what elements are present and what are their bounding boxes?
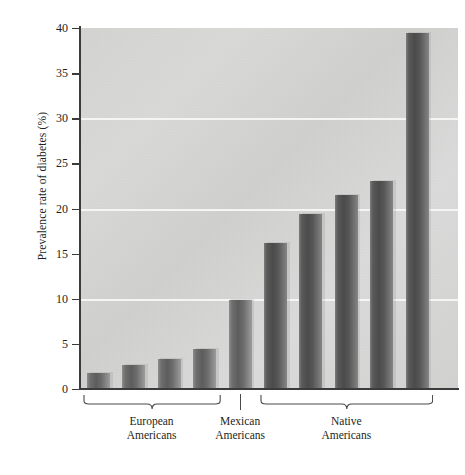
bar [122,365,145,389]
y-axis-tick-mark [72,73,79,74]
y-axis-tick-label: 5 [38,338,68,350]
bar [158,359,181,389]
group-brace [260,394,434,410]
y-axis-tick-mark [72,389,79,390]
bar [264,243,287,389]
y-axis-tick-label: 10 [38,293,68,305]
brace-icon [83,394,221,410]
y-axis-tick-label: 20 [38,203,68,215]
y-axis-tick-label: 15 [38,248,68,260]
group-brace [83,394,221,410]
bar [87,373,110,389]
bar [370,181,393,389]
y-axis-tick-mark [72,299,79,300]
group-annotations: EuropeanAmericansMexicanAmericansNativeA… [0,392,465,475]
group-label-line1: Native [286,414,406,428]
gridline [80,209,458,211]
y-axis-tick-mark [72,344,79,345]
group-label-line2: Americans [286,428,406,442]
gridline [80,118,458,120]
y-axis-tick-mark [72,118,79,119]
y-axis-tick-mark [72,254,79,255]
y-axis-title: Prevalence rate of diabetes (%) [36,66,48,306]
group-label: MexicanAmericans [180,414,300,442]
y-axis-tick-mark [72,163,79,164]
bar [299,214,322,389]
x-axis-line [79,388,459,390]
bar [406,33,429,389]
group-label-line2: Americans [180,428,300,442]
y-axis-tick-mark [72,28,79,29]
y-axis-tick-label: 35 [38,67,68,79]
bar [193,349,216,389]
brace-icon [260,394,434,410]
bar [335,195,358,389]
y-axis-tick-mark [72,209,79,210]
group-label-line1: Mexican [180,414,300,428]
group-divider-tick [240,394,241,410]
y-axis-tick-label: 25 [38,157,68,169]
y-axis-line [79,26,81,390]
bar [229,300,252,389]
diabetes-prevalence-bar-chart: Prevalence rate of diabetes (%) 05101520… [0,0,465,475]
group-label: NativeAmericans [286,414,406,442]
y-axis-tick-label: 40 [38,22,68,34]
plot-area [80,28,458,389]
y-axis-tick-label: 30 [38,112,68,124]
